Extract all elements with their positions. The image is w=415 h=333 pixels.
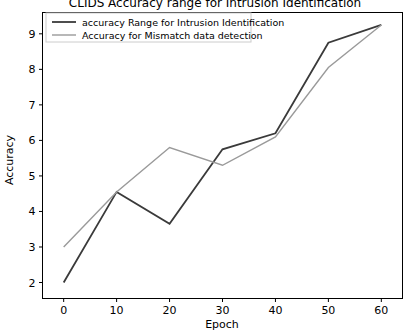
x-tick-label: 30 bbox=[216, 304, 230, 317]
x-tick-label: 0 bbox=[60, 304, 67, 317]
y-axis-label: Accuracy bbox=[3, 134, 16, 185]
figure-background bbox=[0, 0, 415, 333]
x-tick-label: 40 bbox=[268, 304, 282, 317]
chart-legend: accuracy Range for Intrusion Identificat… bbox=[46, 13, 284, 42]
y-tick-label: 6 bbox=[29, 134, 36, 147]
y-tick-label: 5 bbox=[29, 170, 36, 183]
y-tick-label: 9 bbox=[29, 28, 36, 41]
x-tick-label: 10 bbox=[110, 304, 124, 317]
x-tick-label: 60 bbox=[374, 304, 388, 317]
legend-label-series-0: accuracy Range for Intrusion Identificat… bbox=[82, 17, 284, 28]
y-tick-label: 2 bbox=[29, 277, 36, 290]
x-axis-label: Epoch bbox=[205, 318, 239, 331]
line-chart: CLIDS Accuracy range for Intrusion Ident… bbox=[0, 0, 415, 333]
chart-figure: CLIDS Accuracy range for Intrusion Ident… bbox=[0, 0, 415, 333]
legend-label-series-1: Accuracy for Mismatch data detection bbox=[82, 30, 263, 41]
chart-title: CLIDS Accuracy range for Intrusion Ident… bbox=[69, 0, 361, 10]
y-tick-label: 7 bbox=[29, 99, 36, 112]
y-tick-label: 3 bbox=[29, 241, 36, 254]
y-tick-label: 8 bbox=[29, 63, 36, 76]
x-tick-label: 20 bbox=[163, 304, 177, 317]
x-tick-label: 50 bbox=[321, 304, 335, 317]
y-tick-label: 4 bbox=[29, 205, 36, 218]
